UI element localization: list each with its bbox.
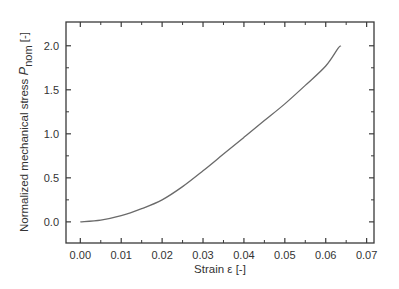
x-tick-label: 0.07: [356, 249, 377, 261]
stress-strain-curve: [80, 46, 341, 222]
y-axis-ticks: [66, 46, 374, 222]
stress-strain-chart: 0.000.010.020.030.040.050.060.07 0.00.51…: [0, 0, 399, 289]
x-tick-label: 0.05: [274, 249, 295, 261]
y-tick-label: 1.0: [44, 128, 59, 140]
x-tick-label: 0.00: [70, 249, 91, 261]
y-axis-label-subscript: nom: [22, 45, 34, 66]
y-tick-label: 0.0: [44, 216, 59, 228]
plot-frame: [66, 22, 374, 243]
y-tick-label: 0.5: [44, 172, 59, 184]
x-tick-label: 0.03: [192, 249, 213, 261]
y-axis-tick-labels: 0.00.51.01.52.0: [44, 40, 59, 228]
x-axis-label: Strain ε [-]: [194, 263, 246, 275]
x-tick-label: 0.06: [315, 249, 336, 261]
x-axis-tick-labels: 0.000.010.020.030.040.050.060.07: [70, 249, 378, 261]
x-axis-ticks: [80, 22, 366, 243]
x-tick-label: 0.04: [233, 249, 254, 261]
y-axis-label: Normalized mechanical stress Pnom [-]: [16, 32, 34, 232]
y-tick-label: 1.5: [44, 84, 59, 96]
y-axis-label-symbol: P: [16, 66, 31, 75]
y-axis-label-main: Normalized mechanical stress: [18, 75, 30, 232]
y-tick-label: 2.0: [44, 40, 59, 52]
x-tick-label: 0.02: [151, 249, 172, 261]
y-axis-label-unit: [-]: [18, 32, 30, 45]
x-tick-label: 0.01: [111, 249, 132, 261]
